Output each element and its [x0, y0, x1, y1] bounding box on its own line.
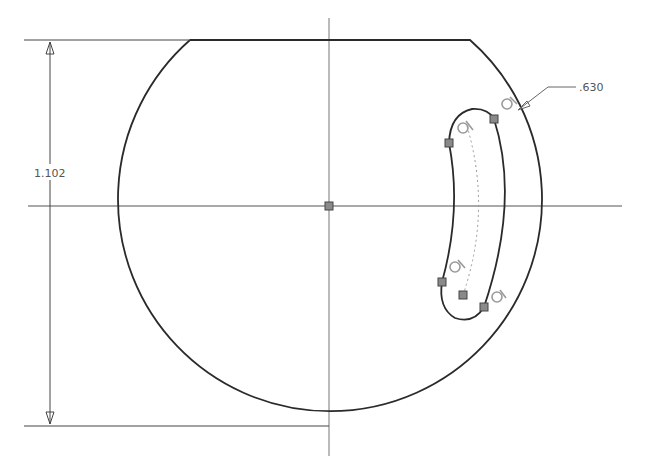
- tangent-constraint-icon[interactable]: [450, 260, 465, 272]
- dimension-label-1102[interactable]: 1.102: [34, 167, 66, 180]
- sketch-canvas[interactable]: 1.102 .630: [0, 0, 652, 472]
- tangent-constraint-icon[interactable]: [458, 121, 473, 133]
- dimension-vertical-height[interactable]: 1.102: [24, 40, 329, 426]
- tangent-constraint-icon[interactable]: [492, 290, 506, 302]
- truncated-circle-profile[interactable]: [118, 40, 542, 411]
- sketch-points: [325, 115, 498, 311]
- tangent-constraint-icon[interactable]: [502, 97, 517, 109]
- dimension-slot-offset[interactable]: .630: [518, 81, 604, 110]
- construction-axes: [28, 18, 622, 456]
- slot-point-top-outer[interactable]: [490, 115, 498, 123]
- origin-point[interactable]: [325, 202, 333, 210]
- slot-point-bottom-inner[interactable]: [438, 278, 446, 286]
- slot-point-bottom-outer[interactable]: [480, 303, 488, 311]
- tangent-constraints: [450, 97, 517, 302]
- dimension-label-630[interactable]: .630: [579, 81, 604, 94]
- slot-point-top-inner[interactable]: [445, 139, 453, 147]
- slot-point-bottom-center[interactable]: [459, 291, 467, 299]
